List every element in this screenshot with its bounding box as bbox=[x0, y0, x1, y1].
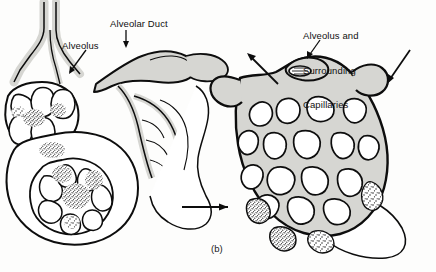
airflow-in-arrow bbox=[387, 50, 410, 84]
figure-caption: (b) bbox=[211, 243, 223, 254]
alveolar-sac-cluster-lower bbox=[7, 132, 138, 245]
left-panel-group bbox=[5, 2, 228, 245]
alveolar-duct-arrowhead bbox=[123, 41, 129, 48]
anatomy-illustration bbox=[0, 0, 436, 272]
alveolar-duct-tube bbox=[94, 52, 228, 93]
right-panel-group bbox=[211, 50, 410, 258]
figure-container: Alveolar Duct Alveolus Alveolus and Surr… bbox=[0, 0, 436, 272]
